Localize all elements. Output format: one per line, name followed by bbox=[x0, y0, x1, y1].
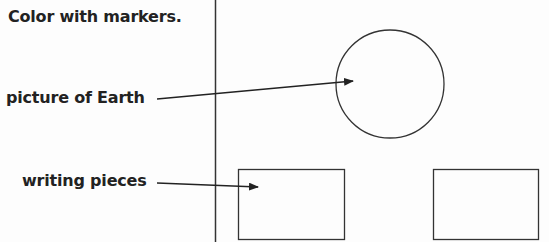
earth-circle bbox=[336, 30, 444, 138]
diagram bbox=[0, 0, 549, 242]
arrow-writing-icon bbox=[157, 183, 258, 187]
writing-piece-box-right bbox=[434, 170, 539, 240]
writing-piece-box-left bbox=[239, 170, 345, 240]
arrow-earth-icon bbox=[157, 81, 353, 99]
